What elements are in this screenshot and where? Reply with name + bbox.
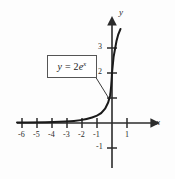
x-tick-label-1: 1	[125, 131, 129, 139]
x-tick-label--4: -4	[48, 131, 55, 139]
x-tick-label--5: -5	[33, 131, 40, 139]
annotation-leader-line	[95, 76, 108, 97]
y-tick-label-2: 2	[98, 68, 102, 76]
x-tick-label--2: -2	[78, 131, 85, 139]
equation-label: y = 2ex	[58, 61, 87, 72]
equation-callout-box: y = 2ex	[47, 55, 97, 78]
x-axis-label: x	[156, 118, 160, 127]
equation-equals: =	[65, 61, 71, 72]
x-tick-label--1: -1	[93, 131, 100, 139]
x-tick-label--6: -6	[18, 131, 25, 139]
x-tick-label--3: -3	[63, 131, 70, 139]
equation-y: y	[58, 61, 63, 72]
y-tick-label--1: -1	[96, 143, 103, 151]
equation-exponent: x	[83, 60, 86, 67]
y-axis-label: y	[119, 8, 123, 17]
exponential-function-figure: y = 2ex -6 -5 -4 -3 -2 -1 1 3 2 -1 x y	[0, 0, 175, 179]
plot-canvas	[0, 0, 175, 179]
y-tick-label-3: 3	[98, 43, 102, 51]
